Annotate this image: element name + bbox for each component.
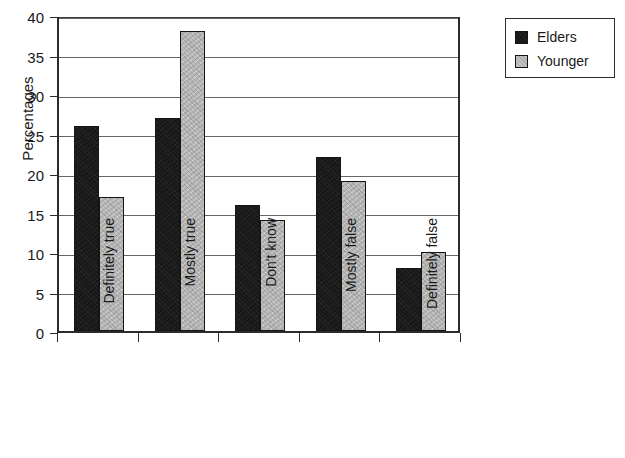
bar-group: [381, 18, 462, 331]
legend-swatch-elders: [515, 31, 528, 44]
x-axis-tick: [138, 333, 139, 342]
y-axis-tick: [50, 57, 57, 58]
bar-group: [59, 18, 140, 331]
y-axis-tick: [50, 175, 57, 176]
y-axis-tick-label: 25: [4, 128, 44, 143]
grouped-bar-chart: Percentages 0510152025303540 Elders Youn…: [0, 0, 625, 458]
x-axis-tick: [299, 333, 300, 342]
y-axis-tick-label: 30: [4, 89, 44, 104]
bar-group: [140, 18, 221, 331]
x-axis-tick-label: Don't know: [264, 218, 278, 348]
legend-label-younger: Younger: [537, 54, 589, 68]
y-axis-tick-label: 40: [4, 10, 44, 25]
legend-entry-elders: Elders: [515, 26, 614, 48]
y-axis-tick: [50, 254, 57, 255]
x-axis-tick-label: Definitely false: [425, 218, 439, 348]
bar-elders: [396, 268, 421, 331]
bar-elders: [155, 118, 180, 331]
y-axis-tick-label: 5: [4, 286, 44, 301]
x-axis-tick-label: Mostly true: [183, 218, 197, 348]
y-axis-tick: [50, 333, 57, 334]
y-axis-tick-label: 0: [4, 326, 44, 341]
y-axis-tick-label: 20: [4, 168, 44, 183]
y-axis-tick: [50, 96, 57, 97]
y-axis-tick: [50, 294, 57, 295]
y-axis: Percentages 0510152025303540: [0, 0, 57, 458]
bar-elders: [316, 157, 341, 331]
x-axis-tick: [57, 333, 58, 342]
x-axis-tick: [218, 333, 219, 342]
legend-label-elders: Elders: [537, 30, 577, 44]
x-axis-tick: [460, 333, 461, 342]
y-axis-tick: [50, 136, 57, 137]
bar-group: [301, 18, 382, 331]
x-axis-tick: [379, 333, 380, 342]
bar-group: [220, 18, 301, 331]
x-axis-tick-label: Mostly false: [344, 218, 358, 348]
x-axis-tick-label: Definitely true: [102, 218, 116, 348]
y-axis-tick-label: 35: [4, 49, 44, 64]
legend-swatch-younger: [515, 55, 528, 68]
bar-elders: [74, 126, 99, 331]
chart-legend: Elders Younger: [505, 18, 615, 78]
y-axis-tick-label: 10: [4, 247, 44, 262]
y-axis-tick: [50, 17, 57, 18]
y-axis-tick: [50, 215, 57, 216]
plot-area: [57, 17, 460, 333]
y-axis-tick-label: 15: [4, 207, 44, 222]
bar-elders: [235, 205, 260, 331]
legend-entry-younger: Younger: [515, 50, 614, 72]
